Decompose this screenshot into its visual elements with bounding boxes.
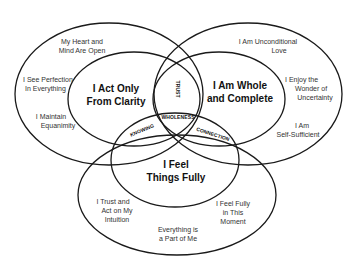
left-outer-item-heart-mind: My Heart and Mind Are Open: [42, 38, 122, 56]
label-line: Wonder of: [283, 85, 339, 94]
label-line: I Maintain: [26, 113, 76, 122]
bottom-outer-item-everything: Everything is a Part of Me: [150, 226, 206, 244]
label-line: Act on My: [88, 207, 138, 216]
label-line: I Am: [270, 122, 326, 131]
left-outer-item-equanimity: I Maintain Equanimity: [26, 113, 76, 131]
label-line: I Am Unconditional: [228, 38, 308, 47]
label-line: Things Fully: [146, 171, 206, 184]
label-line: a Part of Me: [150, 235, 206, 244]
label-line: and Complete: [205, 92, 275, 105]
label-line: I Feel: [146, 158, 206, 171]
label-line: I Act Only: [86, 82, 146, 95]
label-line: I Feel Fully: [208, 200, 258, 209]
label-line: Intuition: [88, 216, 138, 225]
label-line: Equanimity: [26, 122, 76, 131]
label-line: Everything is: [150, 226, 206, 235]
right-outer-item-self-sufficient: I Am Self-Sufficient: [270, 122, 326, 140]
core-label-whole-complete: I Am Whole and Complete: [205, 79, 275, 105]
core-label-feel-fully: I Feel Things Fully: [146, 158, 206, 184]
label-line: I See Perfection: [23, 76, 83, 85]
right-outer-item-uncertainty: I Enjoy the Wonder of Uncertainty: [283, 76, 339, 102]
core-label-clarity: I Act Only From Clarity: [86, 82, 146, 108]
bottom-outer-item-moment: I Feel Fully in This Moment: [208, 200, 258, 226]
label-line: I Trust and: [88, 198, 138, 207]
label-line: Self-Sufficient: [270, 131, 326, 140]
label-line: I Enjoy the: [283, 76, 339, 85]
label-line: My Heart and: [42, 38, 122, 47]
label-line: Moment: [208, 218, 258, 227]
label-line: Mind Are Open: [42, 47, 122, 56]
label-line: in This: [208, 209, 258, 218]
venn-diagram: My Heart and Mind Are Open I See Perfect…: [0, 0, 357, 267]
overlap-label-wholeness: WHOLENESS: [158, 114, 198, 120]
label-line: Love: [228, 47, 308, 56]
bottom-outer-item-intuition: I Trust and Act on My Intuition: [88, 198, 138, 224]
label-line: In Everything: [23, 85, 83, 94]
label-line: Uncertainty: [283, 94, 339, 103]
right-outer-item-unconditional-love: I Am Unconditional Love: [228, 38, 308, 56]
label-line: From Clarity: [86, 95, 146, 108]
left-outer-item-perfection: I See Perfection In Everything: [23, 76, 83, 94]
label-line: I Am Whole: [205, 79, 275, 92]
overlap-label-trust: TRUST: [175, 79, 181, 99]
